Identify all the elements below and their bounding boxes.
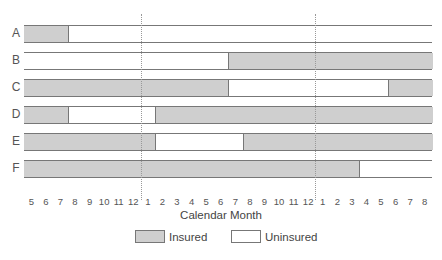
x-tick-label: 6 bbox=[218, 196, 223, 207]
segment-insured bbox=[155, 107, 433, 123]
year-separator-line bbox=[141, 14, 142, 200]
row-label-e: E bbox=[10, 134, 22, 148]
x-tick-label: 3 bbox=[349, 196, 354, 207]
x-tick-label: 8 bbox=[247, 196, 252, 207]
bar-row-e bbox=[24, 133, 432, 151]
segment-insured bbox=[228, 53, 433, 69]
x-tick-label: 1 bbox=[145, 196, 150, 207]
bar-row-b bbox=[24, 52, 432, 70]
year-separator-line bbox=[315, 14, 316, 200]
x-tick-label: 7 bbox=[233, 196, 238, 207]
bar-row-f bbox=[24, 160, 432, 178]
segment-insured bbox=[24, 107, 68, 123]
segment-uninsured bbox=[359, 161, 433, 177]
legend-item-insured: Insured bbox=[135, 230, 207, 243]
uninsured-swatch-icon bbox=[231, 230, 261, 243]
x-tick-label: 5 bbox=[29, 196, 34, 207]
segment-uninsured bbox=[155, 134, 243, 150]
x-tick-label: 12 bbox=[303, 196, 314, 207]
x-tick-label: 9 bbox=[87, 196, 92, 207]
segment-uninsured bbox=[228, 80, 389, 96]
x-tick-label: 6 bbox=[43, 196, 48, 207]
legend-item-uninsured: Uninsured bbox=[231, 230, 317, 243]
legend-label-uninsured: Uninsured bbox=[265, 231, 317, 243]
legend: Insured Uninsured bbox=[0, 230, 442, 246]
insured-swatch-icon bbox=[135, 230, 165, 243]
x-axis-title: Calendar Month bbox=[0, 209, 442, 221]
bar-row-c bbox=[24, 79, 432, 97]
x-tick-label: 10 bbox=[99, 196, 110, 207]
segment-insured bbox=[388, 80, 433, 96]
segment-insured bbox=[24, 26, 68, 42]
x-tick-label: 7 bbox=[407, 196, 412, 207]
x-tick-label: 5 bbox=[378, 196, 383, 207]
x-tick-label: 1 bbox=[320, 196, 325, 207]
segment-insured bbox=[24, 80, 228, 96]
row-label-c: C bbox=[10, 80, 22, 94]
x-tick-label: 6 bbox=[393, 196, 398, 207]
bar-row-a bbox=[24, 25, 432, 43]
legend-label-insured: Insured bbox=[169, 231, 207, 243]
x-tick-label: 3 bbox=[174, 196, 179, 207]
x-tick-label: 2 bbox=[160, 196, 165, 207]
segment-insured bbox=[243, 134, 433, 150]
x-tick-label: 4 bbox=[364, 196, 369, 207]
segment-insured bbox=[24, 134, 155, 150]
segment-insured bbox=[24, 161, 359, 177]
x-tick-label: 5 bbox=[203, 196, 208, 207]
segment-uninsured bbox=[68, 107, 156, 123]
x-tick-label: 7 bbox=[58, 196, 63, 207]
row-label-d: D bbox=[10, 107, 22, 121]
x-tick-label: 11 bbox=[289, 196, 299, 207]
segment-uninsured bbox=[24, 53, 228, 69]
x-tick-label: 12 bbox=[128, 196, 139, 207]
x-tick-label: 9 bbox=[262, 196, 267, 207]
bar-row-d bbox=[24, 106, 432, 124]
row-label-b: B bbox=[10, 53, 22, 67]
row-label-f: F bbox=[10, 161, 22, 175]
x-tick-label: 11 bbox=[114, 196, 124, 207]
x-tick-label: 8 bbox=[72, 196, 77, 207]
x-tick-label: 4 bbox=[189, 196, 194, 207]
segment-uninsured bbox=[68, 26, 433, 42]
x-tick-label: 10 bbox=[274, 196, 285, 207]
row-label-a: A bbox=[10, 26, 22, 40]
x-tick-label: 8 bbox=[422, 196, 427, 207]
x-tick-label: 2 bbox=[335, 196, 340, 207]
